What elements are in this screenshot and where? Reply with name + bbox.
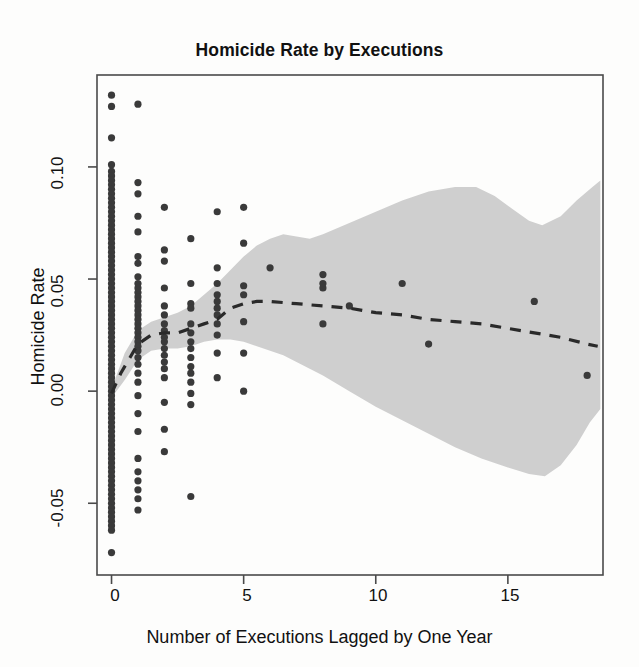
data-point	[108, 527, 115, 534]
data-point	[425, 340, 432, 347]
data-point	[134, 179, 141, 186]
data-point	[240, 318, 247, 325]
data-point	[161, 258, 168, 265]
data-point	[214, 208, 221, 215]
data-point	[187, 390, 194, 397]
data-point	[161, 399, 168, 406]
plot-canvas	[0, 0, 639, 667]
data-point	[134, 392, 141, 399]
data-point	[161, 448, 168, 455]
data-point	[134, 361, 141, 368]
data-point	[399, 280, 406, 287]
data-point	[134, 486, 141, 493]
data-point	[240, 349, 247, 356]
data-point	[134, 455, 141, 462]
data-point	[134, 228, 141, 235]
data-point	[134, 354, 141, 361]
data-point	[108, 549, 115, 556]
data-point	[187, 320, 194, 327]
data-point	[134, 477, 141, 484]
data-point	[584, 372, 591, 379]
data-point	[214, 264, 221, 271]
data-point	[134, 101, 141, 108]
data-point	[214, 291, 221, 298]
data-point	[187, 493, 194, 500]
data-point	[214, 320, 221, 327]
data-point	[134, 506, 141, 513]
data-point	[134, 495, 141, 502]
data-point	[161, 311, 168, 318]
data-point	[161, 365, 168, 372]
data-point	[240, 240, 247, 247]
data-point	[187, 280, 194, 287]
data-point	[134, 428, 141, 435]
data-point	[187, 235, 194, 242]
data-point	[134, 190, 141, 197]
data-point	[161, 204, 168, 211]
data-point	[319, 320, 326, 327]
data-point	[240, 204, 247, 211]
data-point	[319, 284, 326, 291]
data-point	[214, 298, 221, 305]
data-point	[531, 298, 538, 305]
data-point	[161, 320, 168, 327]
data-point	[134, 213, 141, 220]
data-point	[187, 305, 194, 312]
data-point	[187, 354, 194, 361]
data-point	[134, 379, 141, 386]
data-point	[187, 338, 194, 345]
data-point	[161, 374, 168, 381]
data-point	[108, 134, 115, 141]
data-point	[161, 338, 168, 345]
confidence-band-area	[112, 180, 601, 476]
data-point	[214, 331, 221, 338]
data-point	[134, 468, 141, 475]
data-point	[266, 264, 273, 271]
data-point	[161, 345, 168, 352]
data-point	[108, 161, 115, 168]
data-point	[240, 388, 247, 395]
data-point	[134, 260, 141, 267]
data-point	[240, 291, 247, 298]
chart-figure: Homicide Rate by Executions Homicide Rat…	[0, 0, 639, 667]
data-point	[214, 349, 221, 356]
data-point	[161, 426, 168, 433]
data-point	[161, 284, 168, 291]
data-point	[161, 358, 168, 365]
data-point	[134, 410, 141, 417]
data-point	[214, 305, 221, 312]
confidence-band	[112, 180, 601, 476]
data-point	[240, 282, 247, 289]
data-point	[108, 103, 115, 110]
data-point	[134, 253, 141, 260]
data-point	[187, 379, 194, 386]
data-point	[161, 246, 168, 253]
data-point	[134, 370, 141, 377]
data-point	[187, 401, 194, 408]
data-point	[187, 345, 194, 352]
data-point	[214, 280, 221, 287]
data-point	[161, 302, 168, 309]
data-point	[161, 352, 168, 359]
data-point	[187, 370, 194, 377]
data-point	[134, 273, 141, 280]
data-point	[319, 271, 326, 278]
data-point	[108, 92, 115, 99]
data-point	[214, 374, 221, 381]
data-point	[187, 363, 194, 370]
